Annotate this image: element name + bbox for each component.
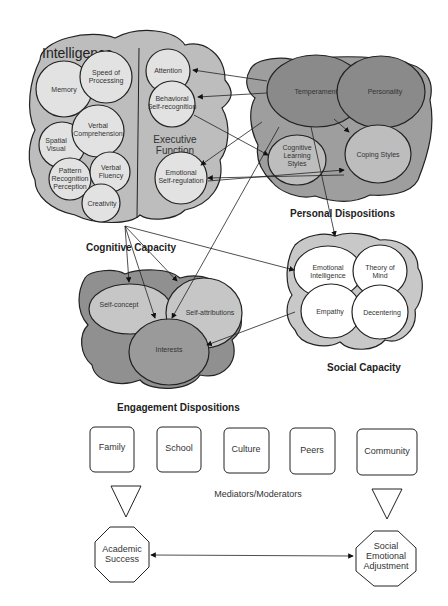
family-label: Family [99, 442, 126, 452]
decentering-label: Decentering [363, 309, 401, 317]
temperament-label: Temperament [295, 88, 338, 96]
right-triangle-icon [372, 489, 402, 519]
engagement-dispositions-title: Engagement Dispositions [117, 402, 240, 413]
spatial-visual-label: SpatialVisual [45, 137, 67, 152]
cognitive-capacity-group: Intelligence Memory Speed ofProcessing S… [29, 31, 231, 253]
personal-dispositions-title: Personal Dispositions [290, 208, 395, 219]
school-label: School [165, 443, 193, 453]
mediator-boxes: Family School Culture Peers Community [90, 427, 417, 475]
interests-label: Interests [156, 346, 183, 353]
left-triangle-icon [111, 486, 141, 517]
empathy-label: Empathy [316, 308, 344, 316]
community-label: Community [364, 446, 410, 456]
culture-label: Culture [231, 444, 260, 454]
personality-label: Personality [368, 88, 403, 96]
speed-of-processing-label: Speed ofProcessing [89, 69, 124, 85]
attention-label: Attention [154, 67, 182, 74]
social-capacity-title: Social Capacity [327, 362, 401, 373]
peers-label: Peers [300, 445, 324, 455]
emotional-intelligence-label: EmotionalIntelligence [310, 264, 346, 280]
outcome-bidirectional-arrow [151, 555, 353, 556]
coping-styles-label: Coping Styles [356, 151, 400, 159]
memory-label: Memory [51, 86, 77, 94]
creativity-label: Creativity [87, 200, 117, 208]
social-emotional-adjustment-octagon: SocialEmotionalAdjustment [356, 531, 416, 586]
academic-success-octagon: AcademicSuccess [95, 527, 149, 582]
social-capacity-group: EmotionalIntelligence Theory ofMind Empa… [287, 233, 422, 373]
cognitive-capacity-title: Cognitive Capacity [86, 242, 176, 253]
model-diagram: Intelligence Memory Speed ofProcessing S… [0, 0, 448, 606]
verbal-fluency-label: VerbalFluency [99, 164, 124, 180]
academic-success-label: AcademicSuccess [102, 544, 142, 564]
self-attributions-label: Self-attributions [186, 309, 235, 316]
self-concept-label: Self-concept [100, 301, 139, 309]
personal-dispositions-group: Temperament Personality CognitiveLearnin… [247, 55, 432, 219]
mediators-label: Mediators/Moderators [214, 489, 302, 499]
